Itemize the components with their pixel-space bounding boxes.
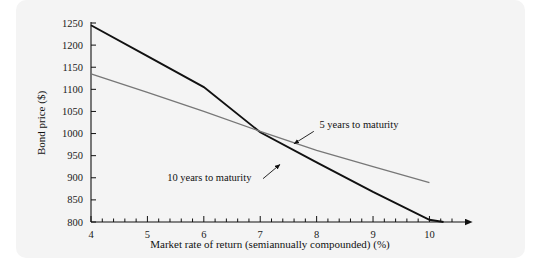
bond-price-chart: 800850900950100010501100115012001250 456… — [0, 0, 541, 277]
chart-axes — [91, 22, 466, 222]
figure-container: 800850900950100010501100115012001250 456… — [0, 0, 541, 277]
y-ticks-group — [91, 23, 96, 222]
x-tick-label: 5 — [145, 229, 150, 240]
y-tick-label: 1200 — [62, 40, 83, 51]
y-tick-label: 800 — [67, 217, 83, 228]
y-tick-label: 1150 — [62, 62, 83, 73]
y-tick-label: 900 — [67, 172, 83, 183]
series-annotation-label: 10 years to maturity — [167, 172, 252, 183]
annotation-arrow — [294, 131, 314, 143]
annotation-arrow — [263, 165, 280, 179]
y-tick-label: 1100 — [62, 84, 83, 95]
x-axis-title: Market rate of return (semiannually comp… — [150, 238, 390, 251]
y-tick-label: 1050 — [62, 106, 83, 117]
y-tick-label: 1000 — [62, 128, 83, 139]
x-tick-label: 10 — [424, 229, 435, 240]
y-tick-labels-group: 800850900950100010501100115012001250 — [62, 18, 83, 228]
y-axis-title: Bond price ($) — [35, 91, 48, 155]
y-tick-label: 1250 — [62, 18, 83, 29]
x-ticks-group — [91, 216, 452, 222]
series-annotation-label: 5 years to maturity — [319, 119, 399, 130]
y-tick-label: 950 — [67, 150, 83, 161]
y-tick-label: 850 — [67, 194, 83, 205]
x-tick-label: 4 — [88, 229, 94, 240]
annotations-group: 5 years to maturity10 years to maturity — [167, 119, 399, 183]
